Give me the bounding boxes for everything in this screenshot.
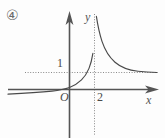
y-axis-label: y — [85, 11, 90, 23]
item-number-label: ④ — [6, 8, 19, 22]
curve-right-branch — [96, 16, 157, 72]
math-figure-panel: ④ y x 1 O 2 — [0, 0, 165, 138]
x-tick-label-2: 2 — [97, 91, 103, 103]
x-axis-label: x — [146, 94, 151, 106]
curve-left-branch — [8, 53, 93, 94]
graph-canvas — [0, 0, 165, 138]
origin-label: O — [60, 91, 69, 103]
y-tick-label-1: 1 — [57, 57, 63, 69]
